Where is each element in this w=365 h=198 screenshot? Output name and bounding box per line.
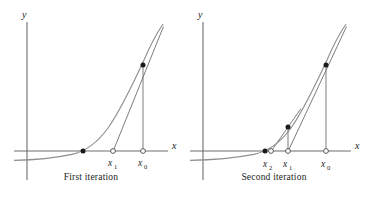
x-axis-label: x — [171, 140, 177, 151]
marker-root-filled — [263, 149, 268, 154]
marker-root-filled — [81, 149, 86, 154]
caption-second-iteration: Second iteration — [183, 172, 365, 182]
tick-label-x1: x 1 — [282, 159, 292, 171]
marker-fx0-filled — [141, 63, 146, 68]
panel-second-iteration: y x x 2 x — [183, 0, 365, 198]
tick-label-x1-base: x — [107, 158, 113, 168]
second-iteration-plot: y x x 2 x — [183, 0, 365, 198]
tick-label-x1-sub: 1 — [289, 164, 292, 171]
tick-label-x0: x 0 — [320, 159, 330, 171]
marker-x0-open — [324, 149, 329, 154]
marker-fx1-filled — [286, 125, 291, 130]
tick-label-x2-base: x — [262, 159, 268, 169]
tangent-line-x1 — [271, 109, 301, 152]
marker-fx0-filled — [324, 63, 329, 68]
tick-label-x1: x 1 — [107, 158, 117, 170]
tick-label-x0-base: x — [320, 159, 326, 169]
tick-label-x0-sub: 0 — [144, 163, 147, 170]
caption-first-iteration: First iteration — [0, 172, 182, 182]
tick-label-x1-sub: 1 — [114, 163, 117, 170]
marker-x2-open — [269, 149, 274, 154]
marker-x1-open — [111, 149, 116, 154]
tick-label-x2: x 2 — [262, 159, 272, 171]
tangent-line-x0 — [288, 27, 347, 152]
marker-x0-open — [141, 149, 146, 154]
newton-method-figure: y x x 1 x 0 First iteration — [0, 0, 365, 198]
first-iteration-plot: y x x 1 x 0 — [0, 0, 182, 198]
tick-label-x0-sub: 0 — [327, 164, 330, 171]
panel-first-iteration: y x x 1 x 0 First iteration — [0, 0, 182, 198]
tick-label-x2-sub: 2 — [269, 164, 272, 171]
x-axis-label: x — [354, 140, 360, 151]
function-curve — [190, 24, 346, 160]
tick-label-x1-base: x — [282, 159, 288, 169]
tangent-line-x0 — [113, 27, 164, 152]
tick-label-x0: x 0 — [137, 158, 147, 170]
marker-x1-open — [286, 149, 291, 154]
y-axis-label: y — [21, 9, 27, 20]
y-axis-label: y — [197, 9, 203, 20]
tick-label-x0-base: x — [137, 158, 143, 168]
function-curve — [14, 24, 163, 160]
